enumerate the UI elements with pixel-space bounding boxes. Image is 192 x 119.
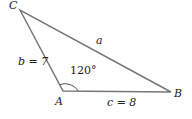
side-label-b: b = 7 [18,56,48,67]
vertex-label-a: A [55,96,63,107]
vertex-label-b: B [174,88,182,99]
triangle-figure: C A B a b = 7 c = 8 120° [0,0,192,119]
side-label-a: a [96,35,103,46]
triangle-abc [20,10,171,92]
side-label-c: c = 8 [107,97,136,108]
vertex-label-c: C [9,0,17,11]
angle-label-a: 120° [70,65,97,76]
